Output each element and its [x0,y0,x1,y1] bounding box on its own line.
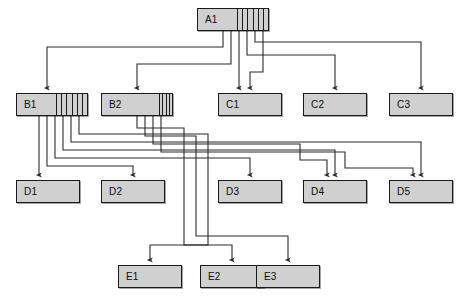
node-b2-label: B2 [102,94,160,115]
node-b1-label: B1 [17,94,57,115]
node-d2[interactable]: D2 [101,180,165,203]
node-e2[interactable]: E2 [200,265,264,288]
node-a1-ports [238,9,268,30]
node-c3-label: C3 [390,94,452,115]
edge-layer [0,0,468,307]
edge-b2-to-d5 [161,116,413,175]
node-b1-ports [57,94,87,115]
node-d1-label: D1 [17,181,79,202]
edge-a1-to-b2 [137,31,231,88]
node-d2-label: D2 [102,181,164,202]
node-b2-ports [160,94,172,115]
node-b1[interactable]: B1 [16,93,88,116]
node-d4[interactable]: D4 [303,180,367,203]
edge-b2-to-d4 [153,116,327,175]
edge-a1-to-c2 [247,31,335,88]
node-e2-label: E2 [201,266,263,287]
node-d3[interactable]: D3 [218,180,282,203]
node-b1-port-6[interactable] [83,94,87,115]
node-e3[interactable]: E3 [256,265,320,288]
node-b2[interactable]: B2 [101,93,173,116]
node-e3-label: E3 [257,266,319,287]
node-a1-label: A1 [198,9,238,30]
node-d5-label: D5 [390,181,452,202]
node-c1[interactable]: C1 [218,93,282,116]
node-d5[interactable]: D5 [389,180,453,203]
edge-a1-to-c1 [250,31,263,88]
node-a1-port-6[interactable] [264,9,268,30]
node-a1[interactable]: A1 [197,8,269,31]
edge-b1-to-d2 [47,116,133,175]
node-d3-label: D3 [219,181,281,202]
edge-a1-to-c3 [255,31,421,88]
node-c3[interactable]: C3 [389,93,453,116]
edge-a1-to-b1 [47,31,223,88]
node-b2-port-4[interactable] [170,94,172,115]
node-d1[interactable]: D1 [16,180,80,203]
node-e1-label: E1 [119,266,181,287]
diagram-canvas: A1B1B2C1C2C3D1D2D3D4D5E1E2E3 [0,0,468,307]
node-c2-label: C2 [304,94,366,115]
node-c2[interactable]: C2 [303,93,367,116]
node-e1[interactable]: E1 [118,265,182,288]
node-d4-label: D4 [304,181,366,202]
node-c1-label: C1 [219,94,281,115]
